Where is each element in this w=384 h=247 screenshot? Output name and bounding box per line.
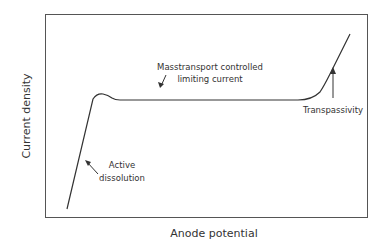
x-axis-label: Anode potential [170,227,257,240]
y-axis-label: Current density [20,73,33,159]
active-label-1: Active [109,160,135,170]
arrowhead-icon [158,82,164,88]
plot-frame [46,15,368,218]
plateau-label-1: Masstransport controlled [157,62,263,72]
arrowhead-icon [330,67,336,74]
polarization-chart: Masstransport controlled limiting curren… [0,0,384,247]
plateau-label-2: limiting current [177,74,243,84]
transpassivity-label: Transpassivity [302,105,363,115]
active-label-2: dissolution [99,173,145,183]
